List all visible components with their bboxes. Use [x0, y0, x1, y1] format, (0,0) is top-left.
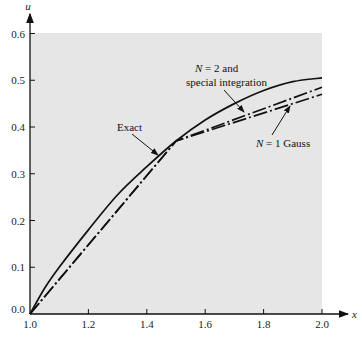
x-tick-label: 1.4 — [140, 318, 154, 330]
y-tick-label: 0.5 — [11, 74, 25, 86]
plot-area — [30, 33, 322, 314]
x-tick-label: 1.2 — [82, 318, 96, 330]
annotation-n1: N = 1 Gauss — [255, 137, 310, 149]
x-axis-label: x — [351, 308, 357, 320]
y-tick-label: 0.1 — [11, 261, 25, 273]
y-axis-label: u — [25, 0, 31, 12]
x-tick-label: 2.0 — [315, 318, 329, 330]
y-tick-label: 0.0 — [11, 303, 25, 315]
y-tick-label: 0.2 — [11, 215, 25, 227]
annotation-n2: N = 2 and — [194, 62, 239, 74]
annotation-n2-line2: special integration — [186, 76, 267, 88]
chart: 1.01.21.41.61.82.00.00.10.20.30.40.50.6x… — [0, 0, 362, 342]
annotation-exact: Exact — [117, 121, 142, 133]
caption-fragment — [0, 334, 362, 342]
y-tick-label: 0.6 — [11, 28, 25, 40]
y-tick-label: 0.4 — [11, 121, 25, 133]
y-tick-label: 0.3 — [11, 168, 25, 180]
x-tick-label: 1.6 — [198, 318, 212, 330]
x-tick-label: 1.8 — [257, 318, 271, 330]
x-tick-label: 1.0 — [23, 318, 37, 330]
